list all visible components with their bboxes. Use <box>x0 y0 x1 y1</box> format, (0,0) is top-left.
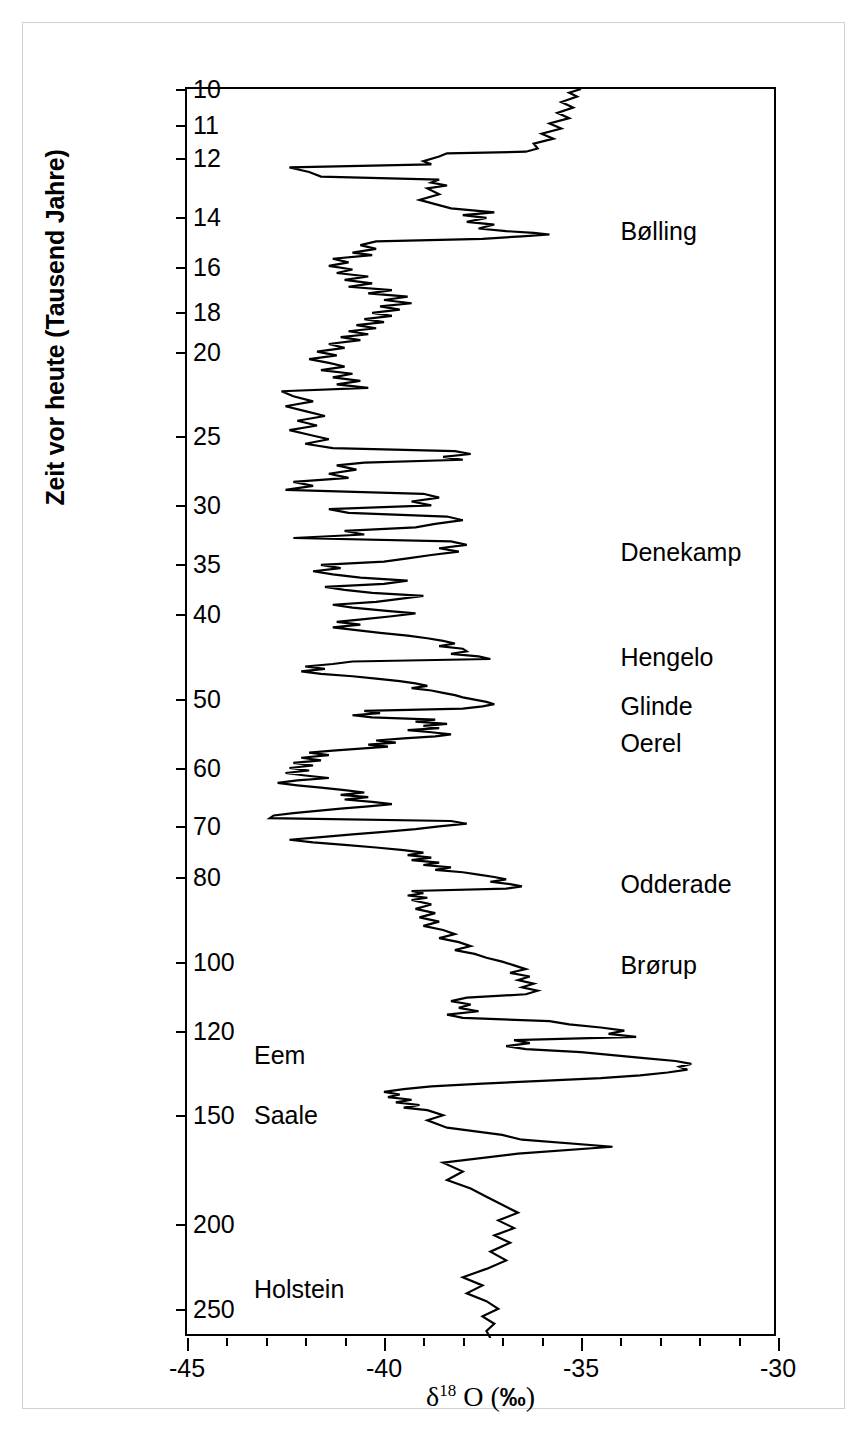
x-axis-title: δ18 O (‰) <box>185 1381 776 1413</box>
y-tick-mark <box>176 614 187 616</box>
permille-symbol: ‰ <box>500 1382 526 1412</box>
y-tick-mark <box>176 89 187 91</box>
y-tick-label: 16 <box>193 255 221 280</box>
y-tick-mark <box>176 505 187 507</box>
y-tick-mark <box>176 158 187 160</box>
y-tick-label: 40 <box>193 602 221 627</box>
x-tick-minor <box>542 1338 544 1346</box>
event-label-holstein: Holstein <box>254 1274 344 1303</box>
y-tick-label: 10 <box>193 77 221 102</box>
y-tick-label: 12 <box>193 146 221 171</box>
event-label-saale: Saale <box>254 1101 318 1130</box>
x-tick-label: -40 <box>366 1354 402 1383</box>
x-tick-label: -45 <box>169 1354 205 1383</box>
y-tick-mark <box>176 1031 187 1033</box>
y-tick-label: 35 <box>193 551 221 576</box>
x-tick-label: -30 <box>760 1354 796 1383</box>
event-label-eem: Eem <box>254 1041 305 1070</box>
y-tick-mark <box>176 312 187 314</box>
y-tick-label: 70 <box>193 814 221 839</box>
x-tick-minor <box>305 1338 307 1346</box>
y-tick-mark <box>176 267 187 269</box>
x-tick-label: -35 <box>563 1354 599 1383</box>
y-tick-mark <box>176 125 187 127</box>
y-tick-mark <box>176 1224 187 1226</box>
y-tick-mark <box>176 826 187 828</box>
y-tick-mark <box>176 352 187 354</box>
x-tick-major <box>384 1338 386 1351</box>
y-tick-mark <box>176 962 187 964</box>
y-tick-label: 30 <box>193 493 221 518</box>
y-tick-label: 200 <box>193 1212 235 1237</box>
delta-symbol: δ <box>426 1381 439 1412</box>
x-tick-minor <box>423 1338 425 1346</box>
x-tick-minor <box>660 1338 662 1346</box>
x-tick-minor <box>502 1338 504 1346</box>
y-axis-title: Zeit vor heute (Tausend Jahre) <box>41 93 70 563</box>
y-tick-label: 100 <box>193 949 235 974</box>
x-tick-minor <box>739 1338 741 1346</box>
y-tick-label: 120 <box>193 1018 235 1043</box>
y-tick-label: 50 <box>193 686 221 711</box>
y-tick-mark <box>176 217 187 219</box>
x-tick-minor <box>620 1338 622 1346</box>
element-symbol: O ( <box>456 1381 500 1412</box>
y-tick-label: 20 <box>193 339 221 364</box>
y-tick-label: 14 <box>193 204 221 229</box>
x-tick-minor <box>699 1338 701 1346</box>
event-label-glinde: Glinde <box>620 692 692 721</box>
page-border: Zeit vor heute (Tausend Jahre) 101112141… <box>22 22 845 1409</box>
y-tick-label: 60 <box>193 756 221 781</box>
paren-close: ) <box>526 1381 535 1412</box>
x-tick-minor <box>266 1338 268 1346</box>
event-label-oerel: Oerel <box>620 728 681 757</box>
y-tick-label: 18 <box>193 299 221 324</box>
y-tick-mark <box>176 1115 187 1117</box>
x-tick-minor <box>463 1338 465 1346</box>
x-tick-major <box>581 1338 583 1351</box>
x-tick-major <box>187 1338 189 1351</box>
y-tick-mark <box>176 564 187 566</box>
y-tick-label: 250 <box>193 1296 235 1321</box>
y-tick-mark <box>176 699 187 701</box>
event-label-odderade: Odderade <box>620 870 731 899</box>
y-tick-label: 80 <box>193 865 221 890</box>
plot-area: 1011121416182025303540506070801001201502… <box>185 87 776 1336</box>
x-tick-major <box>778 1338 780 1351</box>
event-label-blling: Bølling <box>620 217 696 246</box>
x-tick-minor <box>226 1338 228 1346</box>
y-tick-label: 25 <box>193 424 221 449</box>
y-tick-mark <box>176 436 187 438</box>
isotope-superscript: 18 <box>439 1381 456 1400</box>
y-tick-mark <box>176 1309 187 1311</box>
event-label-hengelo: Hengelo <box>620 643 713 672</box>
event-label-denekamp: Denekamp <box>620 537 741 566</box>
y-tick-label: 11 <box>193 113 219 138</box>
y-tick-mark <box>176 768 187 770</box>
x-tick-minor <box>345 1338 347 1346</box>
event-label-brrup: Brørup <box>620 951 696 980</box>
y-tick-label: 150 <box>193 1103 235 1128</box>
y-tick-mark <box>176 877 187 879</box>
